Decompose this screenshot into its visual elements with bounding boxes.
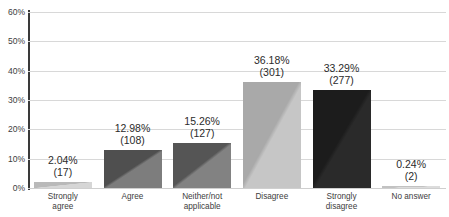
data-label-percent: 2.04% [18,155,108,167]
gridline [28,41,446,42]
x-axis-label-line-2: disagree [302,202,382,212]
x-axis-label-line-1: Disagree [232,192,312,202]
bar-fill [243,82,301,188]
x-axis-label-line-2: agree [23,202,103,212]
data-label-count: (127) [157,128,247,140]
bar-fill [173,143,231,188]
bar-no-answer [382,186,440,188]
bar-fill [382,186,440,188]
x-axis-label-line-1: Neither/not [162,192,242,202]
y-axis-tick-50: 50% [0,36,25,46]
y-axis-tick-20: 20% [0,124,25,134]
bar-disagree [243,82,301,188]
x-axis-label-line-1: No answer [371,192,449,202]
bar-strongly-disagree [313,90,371,188]
data-label-neither-not-applicable: 15.26%(127) [157,116,247,140]
gridline [28,188,446,189]
bar-fill [313,90,371,188]
bar-agree [104,150,162,188]
data-label-strongly-disagree: 33.29%(277) [297,63,387,87]
x-axis-label-disagree: Disagree [232,192,312,202]
gridline [28,100,446,101]
x-axis-label-line-1: Strongly [302,192,382,202]
data-label-no-answer: 0.24%(2) [366,159,449,183]
y-axis-tick-60: 60% [0,7,25,17]
bar-chart: 0%10%20%30%40%50%60% StronglyagreeAgreeN… [0,0,449,217]
bar-fill [34,182,92,188]
x-axis-label-agree: Agree [93,192,173,202]
data-label-count: (277) [297,75,387,87]
chart-title-cropped [0,0,449,3]
x-axis-label-line-2: applicable [162,202,242,212]
bar-fill [104,150,162,188]
data-label-count: (2) [366,171,449,183]
y-axis-tick-0: 0% [0,183,25,193]
bar-strongly-agree [34,182,92,188]
x-axis-label-neither-not-applicable: Neither/notapplicable [162,192,242,213]
x-axis-label-strongly-agree: Stronglyagree [23,192,103,213]
x-axis-label-strongly-disagree: Stronglydisagree [302,192,382,213]
y-axis-tick-40: 40% [0,66,25,76]
y-axis-tick-30: 30% [0,95,25,105]
data-label-count: (17) [18,167,108,179]
x-axis-label-no-answer: No answer [371,192,449,202]
bar-neither-not-applicable [173,143,231,188]
data-label-strongly-agree: 2.04%(17) [18,155,108,179]
x-axis-label-line-1: Strongly [23,192,103,202]
gridline [28,12,446,13]
x-axis-label-line-1: Agree [93,192,173,202]
